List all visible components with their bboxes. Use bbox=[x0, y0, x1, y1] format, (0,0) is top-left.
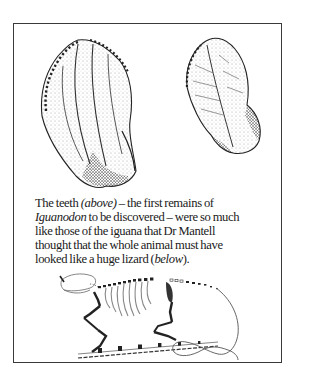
caption-line-4: thought that the whole animal must have bbox=[35, 238, 267, 252]
figure-caption: The teeth (above) – the first remains of… bbox=[35, 196, 267, 266]
caption-line-2: Iguanodon to be discovered – were so muc… bbox=[35, 210, 267, 224]
lizard-skeleton-illustration bbox=[58, 270, 253, 362]
caption-line-5: looked like a huge lizard (below). bbox=[35, 252, 267, 266]
caption-line-1: The teeth (above) – the first remains of bbox=[35, 196, 267, 210]
caption-line-3: like those of the iguana that Dr Mantell bbox=[35, 224, 267, 238]
tooth-left-illustration bbox=[38, 36, 138, 191]
tooth-right-illustration bbox=[183, 35, 268, 157]
